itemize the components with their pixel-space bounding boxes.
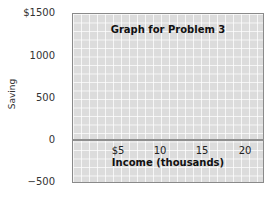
y-tick-1000: 1000 xyxy=(30,50,55,61)
y-tick-500: 500 xyxy=(36,92,55,103)
x-tick-10: 10 xyxy=(154,145,167,156)
x-tick-5: $5 xyxy=(112,145,125,156)
x-tick-20: 20 xyxy=(239,145,252,156)
y-tick-1500: $1500 xyxy=(23,7,55,18)
chart-title: Graph for Problem 3 xyxy=(72,24,264,35)
y-axis-label: Saving xyxy=(7,79,17,109)
y-tick-neg500: −500 xyxy=(28,176,55,187)
zero-axis-line xyxy=(72,139,264,141)
y-tick-0: 0 xyxy=(49,134,55,145)
x-axis-label: Income (thousands) xyxy=(72,157,264,168)
x-tick-15: 15 xyxy=(196,145,209,156)
